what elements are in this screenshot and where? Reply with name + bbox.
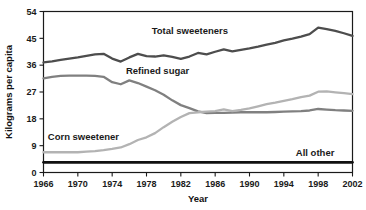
x-axis-tick-label: 2002: [342, 179, 362, 189]
sweetener-consumption-line-chart: 091827364554 196619701974197819821986199…: [0, 0, 366, 210]
y-axis-tick-label: 54: [26, 7, 36, 17]
x-axis-tick-label: 1966: [33, 179, 53, 189]
y-axis-tick-label: 0: [31, 168, 36, 178]
series-label-refined-sugar: Refined sugar: [126, 65, 190, 76]
series-label-total-sweeteners: Total sweeteners: [152, 25, 228, 36]
x-axis-tick-label: 1990: [239, 179, 259, 189]
y-axis-tick-label: 18: [26, 114, 36, 124]
series-label-corn-sweetener: Corn sweetener: [48, 131, 120, 142]
x-axis-tick-label: 1986: [205, 179, 225, 189]
x-axis-tick-label: 1974: [102, 179, 122, 189]
y-axis-tick-label: 45: [26, 34, 36, 44]
x-axis-tick-label: 1994: [274, 179, 294, 189]
series-label-all-other: All other: [296, 147, 335, 158]
y-axis-tick-label: 9: [31, 141, 36, 151]
x-axis-tick-label: 1982: [171, 179, 191, 189]
x-axis-tick-label: 1970: [68, 179, 88, 189]
chart-canvas: 091827364554 196619701974197819821986199…: [0, 0, 366, 210]
y-axis-title: Kilograms per capita: [3, 44, 14, 139]
x-axis-title: Year: [188, 193, 208, 204]
x-axis-tick-label: 1978: [136, 179, 156, 189]
x-axis-tick-label: 1998: [308, 179, 328, 189]
y-axis-tick-label: 36: [26, 60, 36, 70]
y-axis-tick-label: 27: [26, 87, 36, 97]
